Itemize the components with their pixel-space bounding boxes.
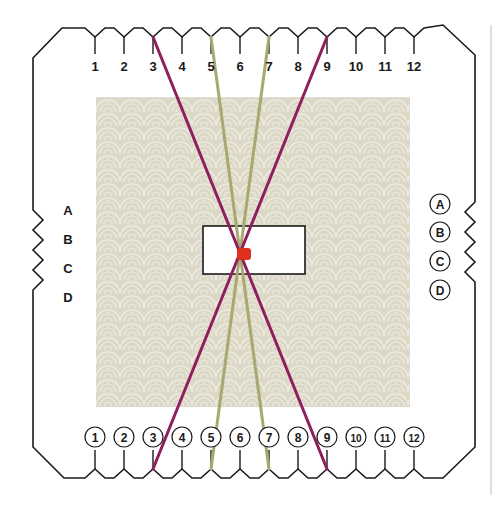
top-slot-label: 4 (178, 59, 186, 74)
left-notch-label: B (63, 232, 72, 247)
bottom-slot-label: 3 (150, 431, 157, 445)
bottom-slot-label: 11 (380, 433, 391, 444)
knot (237, 248, 251, 260)
right-notch-label: A (436, 198, 445, 212)
top-slot-label: 8 (294, 59, 301, 74)
bottom-slot-label: 6 (237, 431, 244, 445)
bottom-slot-label: 2 (121, 431, 128, 445)
top-slot-label: 6 (236, 59, 243, 74)
top-slot-label: 3 (149, 59, 156, 74)
kumihimo-card-diagram: 1 2 3 4 5 6 7 8 9 10 11 12 1 2 3 4 5 6 7… (0, 0, 501, 507)
bottom-slot-label: 9 (324, 431, 331, 445)
right-notch-label: B (436, 226, 445, 240)
top-slot-label: 5 (207, 59, 214, 74)
top-slot-label: 11 (378, 59, 392, 74)
bottom-slot-label: 10 (350, 433, 362, 444)
top-slot-label: 2 (120, 59, 127, 74)
right-notch-label: D (436, 284, 445, 298)
left-notch-label: A (63, 203, 73, 218)
left-notch-label: D (63, 290, 72, 305)
top-slot-label: 9 (323, 59, 330, 74)
top-slot-label: 7 (265, 59, 272, 74)
bottom-slot-label: 4 (179, 431, 186, 445)
top-slot-label: 10 (349, 59, 363, 74)
center-hole (203, 226, 305, 274)
bottom-slot-label: 12 (408, 433, 420, 444)
bottom-slot-label: 8 (295, 431, 302, 445)
left-notch-label: C (63, 261, 73, 276)
bottom-slot-label: 7 (266, 431, 273, 445)
right-notch-label: C (436, 255, 445, 269)
bottom-slot-label: 5 (208, 431, 215, 445)
bottom-slot-label: 1 (92, 431, 99, 445)
top-slot-label: 12 (407, 59, 421, 74)
top-slot-label: 1 (91, 59, 98, 74)
